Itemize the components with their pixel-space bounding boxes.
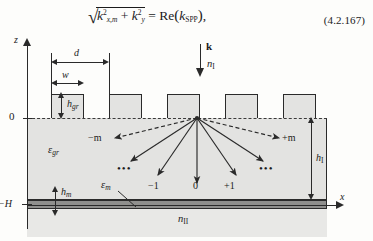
grating-waveguide-diagram: z 0 x −H d w hgr hI hm [0, 36, 373, 241]
equation-trailing-comma: , [203, 8, 206, 23]
equation-row: √ k2x,m + k2y = Re(kSPP), (4.2.167) [0, 4, 373, 34]
order-minus-m-label: −m [88, 132, 101, 143]
order-plus-one-label: +1 [224, 180, 235, 191]
equation-expression: √ k2x,m + k2y = Re(kSPP), [88, 6, 206, 24]
metal-permittivity-leader-line [118, 191, 136, 207]
equation-number: (4.2.167) [324, 14, 365, 26]
equals-operator: = [148, 8, 156, 23]
square-root-group: √ k2x,m + k2y [88, 6, 145, 24]
plus-operator: + [121, 8, 129, 23]
diffraction-origin-point [195, 116, 199, 120]
textbook-page: √ k2x,m + k2y = Re(kSPP), (4.2.167) [0, 0, 373, 241]
k-y-subscript: y [142, 15, 145, 24]
order-left-ellipsis-arrow [131, 118, 197, 161]
order-minus-one-label: −1 [148, 180, 159, 191]
k-xm-subscript: x,m [107, 15, 118, 24]
k-spp-subscript: SPP [185, 15, 198, 24]
radical-icon: √ [88, 7, 98, 26]
radical-vinculum [96, 7, 145, 8]
order-right-ellipsis-arrow [197, 118, 263, 161]
re-function: Re [159, 8, 174, 23]
order-left-ellipsis-label: ••• [117, 162, 132, 174]
diffraction-orders-overlay [0, 36, 373, 241]
order-plus-m-label: +m [282, 132, 295, 143]
radicand: k2x,m + k2y [97, 6, 145, 24]
order-zero-label: 0 [193, 180, 198, 191]
order-right-ellipsis-label: ••• [259, 162, 274, 174]
